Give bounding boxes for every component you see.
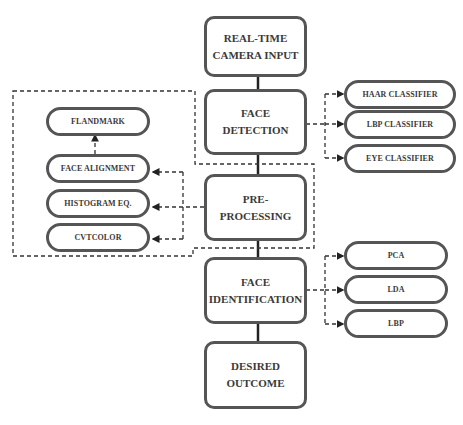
preprocessing-node: PRE-PROCESSING xyxy=(204,174,307,241)
detection-branches xyxy=(306,94,343,158)
haar-classifier-node: HAAR CLASSIFIER xyxy=(344,80,456,109)
eye-classifier-node: EYE CLASSIFIER xyxy=(344,144,456,173)
lbp-classifier-node: LBP CLASSIFIER xyxy=(344,110,456,139)
node-label: REAL-TIME xyxy=(213,30,299,47)
node-label: PRE- xyxy=(220,191,292,208)
node-label: FACE xyxy=(209,274,302,291)
flandmark-node: FLANDMARK xyxy=(46,107,150,136)
cvtcolor-node: CVTCOLOR xyxy=(46,223,150,252)
pca-node: PCA xyxy=(344,241,448,270)
camera-input-node: REAL-TIMECAMERA INPUT xyxy=(204,16,307,77)
identification-branches xyxy=(306,256,343,324)
node-label: FACE xyxy=(222,105,288,122)
node-label: PROCESSING xyxy=(220,208,292,225)
node-label: OUTCOME xyxy=(226,375,284,392)
node-label: DETECTION xyxy=(222,122,288,139)
histogram-eq-node: HISTOGRAM EQ. xyxy=(46,189,150,218)
lbp-node: LBP xyxy=(344,309,448,338)
lda-node: LDA xyxy=(344,275,448,304)
node-label: CAMERA INPUT xyxy=(213,47,299,64)
node-label: DESIRED xyxy=(226,358,284,375)
desired-outcome-node: DESIREDOUTCOME xyxy=(204,341,307,409)
node-label: IDENTIFICATION xyxy=(209,291,302,308)
face-identification-node: FACEIDENTIFICATION xyxy=(204,257,307,324)
face-recognition-flowchart: REAL-TIMECAMERA INPUT FACEDETECTION PRE-… xyxy=(0,0,463,425)
face-alignment-node: FACE ALIGNMENT xyxy=(46,154,150,183)
face-detection-node: FACEDETECTION xyxy=(204,89,307,155)
